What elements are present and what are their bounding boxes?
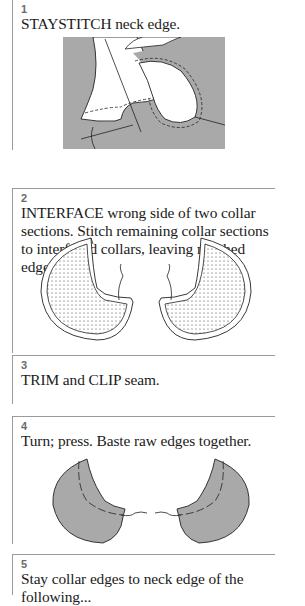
step-3: 3 TRIM and CLIP seam. [12, 355, 275, 404]
step-4: 4 Turn; press. Baste raw edges together. [12, 416, 275, 544]
step-2: 2 INTERFACE wrong side of two collar sec… [12, 188, 275, 353]
step-number: 2 [21, 192, 27, 204]
step-instruction: STAYSTITCH neck edge. [21, 15, 281, 33]
step-5: 5 Stay collar edges to neck edge of the … [12, 554, 275, 595]
right-turned-collar [155, 459, 249, 543]
left-turned-collar [53, 459, 147, 543]
left-collar [41, 238, 133, 340]
interfaced-collars-illustration [31, 236, 261, 346]
step-number: 5 [21, 558, 27, 570]
step-instruction: TRIM and CLIP seam. [21, 371, 281, 389]
step-1: 1 STAYSTITCH neck edge. [12, 0, 275, 150]
step-number: 1 [21, 3, 27, 15]
turned-collars-illustration [51, 457, 251, 545]
staystitch-neck-illustration [63, 37, 225, 149]
step-instruction: Stay collar edges to neck edge of the fo… [21, 570, 281, 606]
step-number: 4 [21, 420, 27, 432]
right-collar [159, 238, 251, 340]
step-instruction: Turn; press. Baste raw edges together. [21, 432, 281, 450]
step-number: 3 [21, 359, 27, 371]
